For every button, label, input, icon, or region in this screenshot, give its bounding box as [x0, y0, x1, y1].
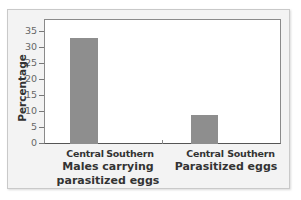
y-tick [39, 79, 44, 80]
group-label-males: Males carrying parasitized eggs [57, 160, 160, 188]
category-label: Southern [106, 148, 154, 159]
y-tick-label: 0 [13, 138, 37, 148]
category-label: Southern [227, 148, 275, 159]
group-label-line: parasitized eggs [57, 174, 160, 188]
y-tick [39, 143, 44, 144]
y-tick [39, 47, 44, 48]
y-tick-label: 30 [13, 42, 37, 52]
y-tick [39, 31, 44, 32]
y-tick-label: 5 [13, 122, 37, 132]
y-tick-label: 35 [13, 26, 37, 36]
y-tick [39, 127, 44, 128]
category-label: Central [186, 148, 224, 159]
y-axis-label: Percentage [16, 54, 28, 122]
category-label: Central [66, 148, 104, 159]
x-group-divider-tick [162, 140, 163, 144]
bar-males-central [70, 38, 98, 144]
y-tick [39, 63, 44, 64]
group-label-line: Males carrying [57, 160, 160, 174]
group-label-line: Parasitized eggs [175, 160, 278, 174]
y-tick [39, 111, 44, 112]
bar-eggs-central [191, 115, 218, 144]
y-tick [39, 95, 44, 96]
group-label-eggs: Parasitized eggs [175, 160, 278, 174]
